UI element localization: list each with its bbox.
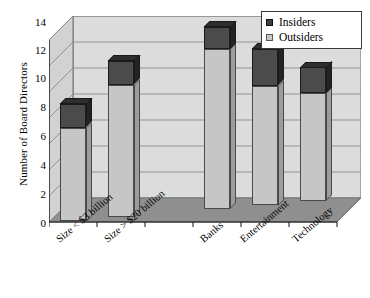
bar-segment-insiders xyxy=(60,104,87,127)
bar-side-outsiders xyxy=(326,88,332,202)
y-tick-0: 0 xyxy=(22,218,46,229)
y-tick-6: 6 xyxy=(22,131,46,142)
bar-top-face xyxy=(60,98,93,104)
y-tick-14: 14 xyxy=(22,17,46,28)
bar-side-outsiders xyxy=(134,79,140,217)
y-tick-2: 2 xyxy=(22,189,46,200)
legend-item-outsiders: Outsiders xyxy=(266,30,357,45)
bar-segment-insiders xyxy=(108,61,135,84)
bar-segment-outsiders xyxy=(60,128,87,222)
y-axis-tick-labels: 14 12 10 8 6 4 2 0 xyxy=(20,0,46,298)
legend-label-insiders: Insiders xyxy=(279,17,315,29)
bar-top-face xyxy=(108,55,141,61)
bar-side-insiders xyxy=(278,44,284,86)
bar-side-outsiders xyxy=(278,80,284,205)
legend-item-insiders: Insiders xyxy=(266,15,357,30)
outsiders-swatch-icon xyxy=(266,34,273,41)
bar-segment-insiders xyxy=(300,67,327,93)
insiders-swatch-icon xyxy=(266,19,273,26)
y-tick-12: 12 xyxy=(22,45,46,56)
bar-side-outsiders xyxy=(230,44,236,210)
bar-top-face xyxy=(204,21,237,27)
bar-top-face xyxy=(300,62,333,68)
bar-chart: Number of Board Directors 14 12 10 8 6 4… xyxy=(0,0,370,298)
bar-segment-outsiders xyxy=(204,49,231,209)
legend-label-outsiders: Outsiders xyxy=(279,32,323,44)
y-tick-10: 10 xyxy=(22,73,46,84)
bar-banks xyxy=(204,27,231,209)
bar-size-20-billion xyxy=(108,61,135,217)
bar-size-3-billion xyxy=(60,104,87,221)
bar-segment-insiders xyxy=(204,27,231,49)
y-tick-8: 8 xyxy=(22,102,46,113)
bar-segment-outsiders xyxy=(300,93,327,201)
bar-technology xyxy=(300,67,327,201)
bar-entertainment xyxy=(252,49,279,205)
y-tick-4: 4 xyxy=(22,160,46,171)
bar-segment-outsiders xyxy=(252,86,279,206)
bar-segment-insiders xyxy=(252,49,279,85)
chart-legend: Insiders Outsiders xyxy=(261,11,362,49)
